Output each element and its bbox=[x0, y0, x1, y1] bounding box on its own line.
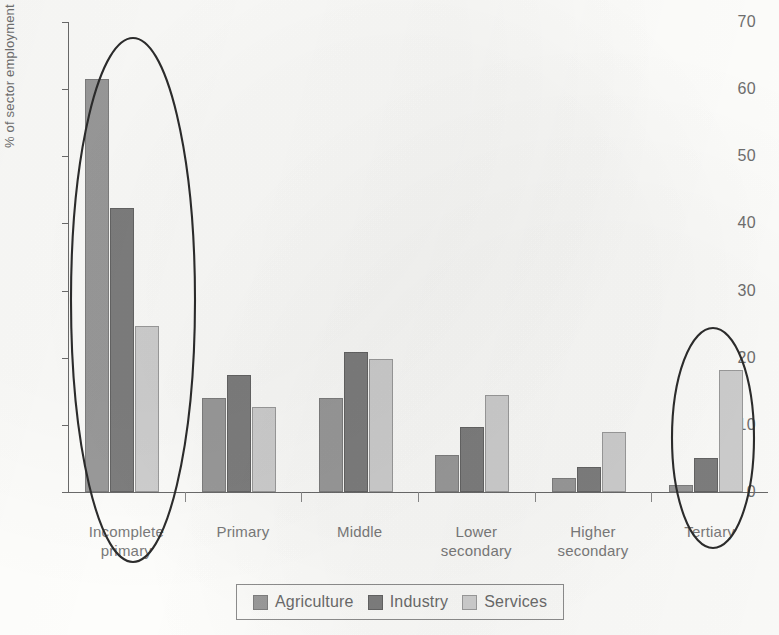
y-tick-label: 70 bbox=[722, 13, 756, 31]
y-tick-label: 60 bbox=[722, 80, 756, 98]
legend-label-agriculture: Agriculture bbox=[275, 593, 354, 611]
x-category-label-line: secondary bbox=[418, 541, 535, 560]
y-tick bbox=[62, 492, 68, 493]
bar-industry-incomplete-primary bbox=[110, 208, 134, 492]
bar-services-incomplete-primary bbox=[135, 326, 159, 492]
y-tick-label: 30 bbox=[722, 281, 756, 299]
chart-page: % of sector employment 010203040506070 I… bbox=[0, 0, 779, 635]
x-category-label-middle: Middle bbox=[301, 522, 418, 541]
legend: AgricultureIndustryServices bbox=[236, 584, 564, 620]
bar-services-middle bbox=[369, 359, 393, 492]
bar-industry-primary bbox=[227, 375, 251, 492]
x-category-label-tertiary: Tertiary bbox=[651, 522, 768, 541]
x-category-label-incomplete-primary: Incompleteprimary bbox=[68, 522, 185, 560]
y-axis-title: % of sector employment bbox=[2, 0, 17, 148]
plot-area: 010203040506070 IncompleteprimaryPrimary… bbox=[68, 22, 768, 492]
x-axis-separator bbox=[418, 492, 419, 502]
legend-item-industry: Industry bbox=[368, 593, 449, 611]
legend-item-services: Services bbox=[462, 593, 547, 611]
bar-services-lower-secondary bbox=[485, 395, 509, 492]
bar-industry-tertiary bbox=[694, 458, 718, 492]
legend-swatch-agriculture bbox=[253, 595, 268, 610]
y-tick bbox=[62, 156, 68, 157]
bar-services-higher-secondary bbox=[602, 432, 626, 492]
bar-agriculture-lower-secondary bbox=[435, 455, 459, 492]
y-tick bbox=[62, 358, 68, 359]
bar-agriculture-primary bbox=[202, 398, 226, 492]
legend-swatch-services bbox=[462, 595, 477, 610]
x-category-label-line: Tertiary bbox=[651, 522, 768, 541]
x-axis-separator bbox=[185, 492, 186, 502]
y-axis-line bbox=[68, 22, 69, 492]
x-category-label-primary: Primary bbox=[185, 522, 302, 541]
legend-swatch-industry bbox=[368, 595, 383, 610]
y-tick bbox=[62, 425, 68, 426]
x-category-label-line: Higher bbox=[535, 522, 652, 541]
y-tick bbox=[62, 223, 68, 224]
bar-agriculture-higher-secondary bbox=[552, 478, 576, 492]
y-tick-label: 20 bbox=[722, 348, 756, 366]
x-axis-separator bbox=[535, 492, 536, 502]
bar-industry-lower-secondary bbox=[460, 427, 484, 492]
x-axis-separator bbox=[301, 492, 302, 502]
y-tick-label: 50 bbox=[722, 147, 756, 165]
x-category-label-line: Lower bbox=[418, 522, 535, 541]
bar-services-tertiary bbox=[719, 370, 743, 492]
x-category-label-line: primary bbox=[68, 541, 185, 560]
bar-agriculture-middle bbox=[319, 398, 343, 492]
x-axis-separator bbox=[651, 492, 652, 502]
x-category-label-line: Incomplete bbox=[68, 522, 185, 541]
legend-label-industry: Industry bbox=[390, 593, 449, 611]
x-category-label-lower-secondary: Lowersecondary bbox=[418, 522, 535, 560]
y-tick bbox=[62, 89, 68, 90]
bar-agriculture-incomplete-primary bbox=[85, 79, 109, 492]
y-tick bbox=[62, 22, 68, 23]
bar-services-primary bbox=[252, 407, 276, 492]
y-tick bbox=[62, 291, 68, 292]
x-category-label-higher-secondary: Highersecondary bbox=[535, 522, 652, 560]
y-tick-label: 40 bbox=[722, 214, 756, 232]
bar-agriculture-tertiary bbox=[669, 485, 693, 492]
bar-industry-higher-secondary bbox=[577, 467, 601, 492]
x-category-label-line: Middle bbox=[301, 522, 418, 541]
bar-industry-middle bbox=[344, 352, 368, 492]
legend-label-services: Services bbox=[484, 593, 547, 611]
legend-item-agriculture: Agriculture bbox=[253, 593, 354, 611]
x-category-label-line: secondary bbox=[535, 541, 652, 560]
x-category-label-line: Primary bbox=[185, 522, 302, 541]
